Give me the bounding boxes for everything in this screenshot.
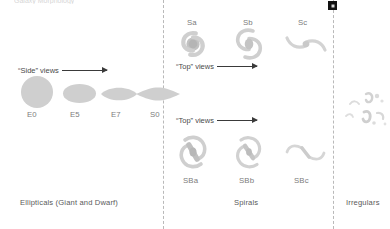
galaxy-shape-irregular-group — [344, 92, 390, 144]
top-views-arrow-icon-lower — [217, 120, 257, 121]
galaxy-shape-sa — [176, 28, 210, 60]
top-views-annotation-upper: “Top” views — [176, 62, 257, 71]
galaxy-shape-e7 — [101, 85, 137, 103]
divider-ellipticals-spirals — [163, 0, 164, 229]
top-views-label-upper: “Top” views — [176, 62, 214, 71]
top-views-annotation-lower: “Top” views — [176, 116, 257, 125]
galaxy-label-sbb: SBb — [239, 176, 254, 185]
cropped-title-text: Galaxy Morphology — [14, 0, 74, 4]
galaxy-label-sbc: SBc — [294, 176, 309, 185]
galaxy-label-e5: E5 — [70, 110, 80, 119]
top-views-label-lower: “Top” views — [176, 116, 214, 125]
galaxy-shape-sbc — [286, 136, 326, 168]
section-caption-spirals: Spirals — [234, 198, 258, 207]
side-views-label: “Side” views — [18, 66, 59, 75]
corner-marker-inner-dot — [331, 4, 334, 7]
galaxy-label-sa: Sa — [187, 18, 197, 27]
galaxy-shape-e5 — [63, 84, 96, 103]
galaxy-label-sba: SBa — [183, 176, 198, 185]
page-corner-marker — [328, 1, 337, 10]
galaxy-shape-sbb — [232, 134, 266, 170]
side-views-annotation: “Side” views — [18, 66, 107, 75]
galaxy-shape-sc — [286, 29, 326, 59]
galaxy-shape-s0 — [136, 86, 180, 102]
galaxy-shape-sb — [232, 28, 266, 60]
galaxy-shape-sba — [176, 134, 210, 170]
galaxy-label-sb: Sb — [243, 18, 253, 27]
galaxy-label-e0: E0 — [27, 110, 37, 119]
side-views-arrow-icon — [62, 70, 107, 71]
galaxy-shape-e0 — [21, 76, 53, 108]
section-caption-irregulars: Irregulars — [346, 198, 380, 207]
galaxy-label-s0: S0 — [150, 110, 160, 119]
galaxy-classification-figure: Galaxy Morphology “Side” views E0 E5 E7 … — [0, 0, 390, 229]
galaxy-label-sc: Sc — [298, 18, 307, 27]
divider-spirals-irregulars — [333, 0, 334, 229]
section-caption-ellipticals: Ellipticals (Giant and Dwarf) — [20, 198, 118, 207]
galaxy-label-e7: E7 — [111, 110, 121, 119]
top-views-arrow-icon-upper — [217, 66, 257, 67]
